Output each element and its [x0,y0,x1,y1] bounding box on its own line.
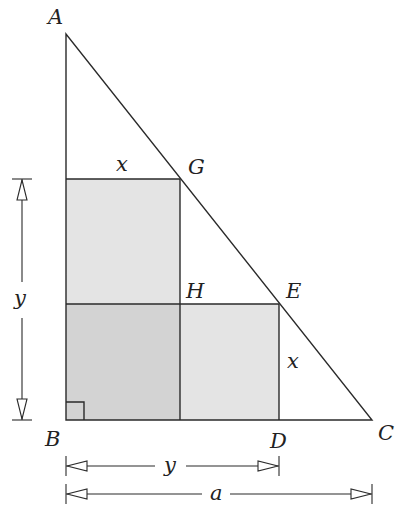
label-point-a: A [46,5,63,29]
geometry-diagram: A B C D E G H x x y y a [0,0,402,515]
label-segment-x-top: x [116,152,128,176]
label-point-b: B [44,427,60,451]
arrow-left-icon [67,489,87,499]
arrow-right-icon [351,489,371,499]
label-segment-x-right: x [287,349,299,373]
arrow-right-icon [258,461,278,471]
label-point-c: C [378,421,394,445]
arrow-left-icon [67,461,87,471]
label-dimension-horizontal-y: y [163,453,177,477]
upper-square-region [66,179,180,304]
label-dimension-a: a [210,481,223,505]
right-square-region [180,304,279,420]
label-point-d: D [269,429,287,453]
label-point-e: E [285,279,301,303]
label-point-h: H [185,279,205,303]
arrow-up-icon [17,180,27,200]
label-dimension-vertical-y: y [13,286,27,310]
arrow-down-icon [17,399,27,419]
label-point-g: G [188,155,205,179]
